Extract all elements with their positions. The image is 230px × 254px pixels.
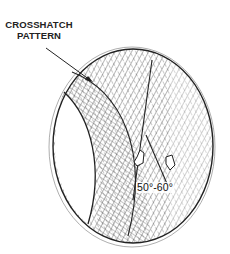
angle-label: 50°-60° — [136, 182, 174, 193]
label-line-2: PATTERN — [2, 30, 76, 41]
label-line-1: CROSSHATCH — [2, 19, 76, 30]
crosshatch-pattern-label: CROSSHATCH PATTERN — [2, 19, 76, 41]
crosshatch-fill — [40, 40, 230, 254]
leader-line — [46, 48, 90, 80]
